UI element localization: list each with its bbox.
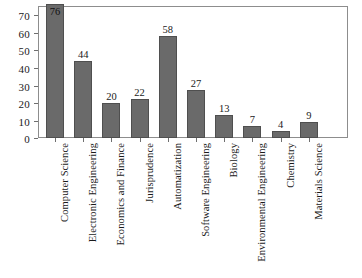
x-axis-label: Environmental Engineering (256, 143, 267, 262)
bar[interactable] (46, 4, 64, 138)
bar[interactable] (187, 90, 205, 138)
bar-group[interactable]: 58 (159, 6, 177, 138)
x-axis-category-labels: Computer ScienceElectronic EngineeringEc… (38, 143, 348, 275)
bar-group[interactable]: 9 (300, 6, 318, 138)
bar-value-label: 4 (266, 119, 296, 130)
bar[interactable] (300, 122, 318, 138)
x-axis-tick-mark (309, 138, 310, 142)
bar-value-label: 27 (181, 78, 211, 89)
bar-value-label: 20 (96, 91, 126, 102)
y-axis-tick-label: 50 (19, 45, 34, 57)
bar[interactable] (131, 99, 149, 138)
bar-value-label: 76 (40, 6, 70, 17)
x-axis-label: Jurisprudence (144, 143, 155, 203)
bar-value-label: 58 (153, 24, 183, 35)
x-axis-tick-mark (281, 138, 282, 142)
y-axis-tick-label: 40 (19, 63, 34, 75)
x-axis-tick-mark (140, 138, 141, 142)
bar-value-label: 7 (237, 114, 267, 125)
bar-chart-figure: 010203040506070 76442022582713749 Comput… (0, 0, 362, 278)
y-axis-tick: 20 (19, 97, 38, 109)
x-axis-label: Chemistry (285, 143, 296, 188)
y-axis-tick-label: 20 (19, 98, 34, 110)
x-axis-label: Software Engineering (200, 143, 211, 237)
bar-group[interactable]: 13 (215, 6, 233, 138)
bar-value-label: 13 (209, 103, 239, 114)
bar-group[interactable]: 44 (74, 6, 92, 138)
y-axis-tick: 0 (24, 132, 38, 144)
y-axis-tick: 60 (19, 26, 38, 38)
y-axis-tick-label: 30 (19, 81, 34, 93)
bar[interactable] (272, 131, 290, 138)
bar-group[interactable]: 22 (131, 6, 149, 138)
bar-value-label: 22 (125, 87, 155, 98)
bar[interactable] (215, 115, 233, 138)
x-axis-tick-mark (224, 138, 225, 142)
x-axis-tick-mark (83, 138, 84, 142)
y-axis: 010203040506070 (0, 0, 38, 144)
y-axis-tick-label: 10 (19, 116, 34, 128)
x-axis-label: Automatization (172, 143, 183, 210)
bar-group[interactable]: 7 (243, 6, 261, 138)
x-axis-label: Economics and Finance (115, 143, 126, 245)
y-axis-tick: 40 (19, 62, 38, 74)
bar[interactable] (102, 103, 120, 138)
bar-group[interactable]: 20 (102, 6, 120, 138)
y-axis-tick: 70 (19, 9, 38, 21)
x-axis-tick-mark (168, 138, 169, 142)
bar-group[interactable]: 4 (272, 6, 290, 138)
x-axis-tick-mark (196, 138, 197, 142)
y-axis-tick: 30 (19, 79, 38, 91)
bar-group[interactable]: 76 (46, 6, 64, 138)
y-axis-tick-label: 60 (19, 28, 34, 40)
x-axis-label: Biology (228, 143, 239, 178)
y-axis-tick: 10 (19, 114, 38, 126)
x-axis-label: Computer Science (59, 143, 70, 222)
x-axis-tick-mark (111, 138, 112, 142)
y-axis-tick-label: 0 (24, 133, 34, 145)
bar[interactable] (74, 61, 92, 138)
bar-value-label: 9 (294, 110, 324, 121)
bar[interactable] (243, 126, 261, 138)
bar-value-label: 44 (68, 49, 98, 60)
y-axis-tick-label: 70 (19, 10, 34, 22)
y-axis-tick: 50 (19, 44, 38, 56)
x-axis-label: Electronic Engineering (87, 143, 98, 242)
x-axis-tick-mark (55, 138, 56, 142)
x-axis-tick-mark (252, 138, 253, 142)
bars-layer: 76442022582713749 (38, 6, 348, 138)
x-axis-label: Materials Science (313, 143, 324, 220)
bar-group[interactable]: 27 (187, 6, 205, 138)
bar[interactable] (159, 36, 177, 138)
